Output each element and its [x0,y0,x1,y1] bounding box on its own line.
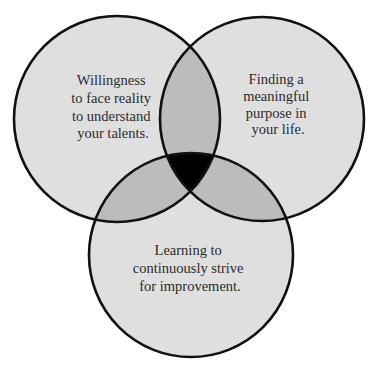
label-left-line-3: to understand [72,108,151,124]
label-right-line-4: your life. [251,121,304,137]
label-left-line-1: Willingness [77,72,146,88]
label-bottom-line-2: continuously strive [133,260,244,276]
label-right-line-3: purpose in [246,105,308,121]
label-left-line-2: to face reality [71,90,151,106]
venn-diagram: Willingness to face reality to understan… [0,0,377,367]
label-left-line-4: your talents. [77,125,149,141]
label-bottom-line-3: for improvement. [139,278,240,294]
label-right-line-1: Finding a [249,71,305,87]
label-right-line-2: meaningful [243,88,309,104]
label-bottom-line-1: Learning to [155,242,222,258]
